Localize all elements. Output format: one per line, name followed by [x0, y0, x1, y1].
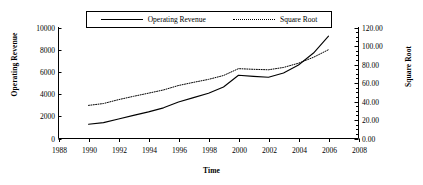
series-line-square-root: [89, 50, 329, 106]
plot-area: [0, 0, 423, 185]
series-line-operating-revenue: [89, 36, 329, 124]
chart-container: Operating Revenue Square Root Time Opera…: [0, 0, 423, 185]
